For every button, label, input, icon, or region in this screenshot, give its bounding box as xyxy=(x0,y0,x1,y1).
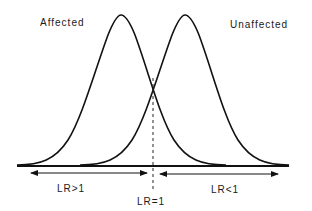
affected-label: Affected xyxy=(40,17,85,28)
likelihood-ratio-diagram: Affected Unaffected LR>1 LR=1 LR<1 xyxy=(0,0,312,211)
unaffected-label: Unaffected xyxy=(230,19,288,30)
lr-greater-label: LR>1 xyxy=(57,183,85,194)
lr-less-label: LR<1 xyxy=(211,184,239,195)
lr-equal-label: LR=1 xyxy=(137,196,165,207)
unaffected-distribution-curve xyxy=(80,15,289,165)
affected-distribution-curve xyxy=(17,15,226,165)
